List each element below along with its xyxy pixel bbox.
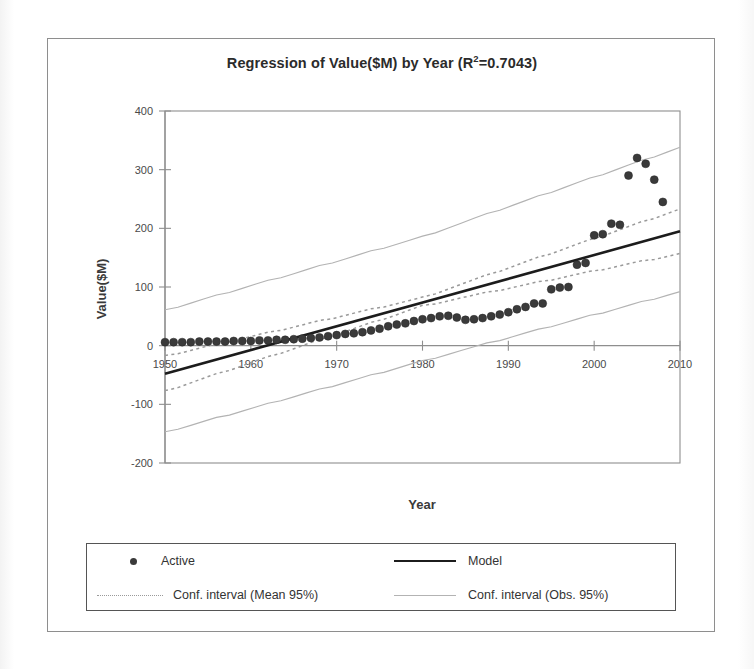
y-tick-label: -100 (131, 398, 153, 410)
solid-line-icon (382, 560, 468, 562)
data-point (633, 154, 641, 162)
data-point (401, 319, 409, 327)
active-data-points (161, 154, 667, 346)
legend-item-conf-obs: Conf. interval (Obs. 95%) (382, 578, 677, 612)
data-point (547, 285, 555, 293)
data-point (341, 330, 349, 338)
data-point (384, 322, 392, 330)
plot-area: 4003002001000-100-200 195019601970198019… (48, 39, 716, 539)
data-point (625, 172, 633, 180)
legend-item-active: Active (87, 544, 382, 578)
data-point (393, 321, 401, 329)
legend-label-model: Model (468, 554, 502, 568)
data-point (410, 317, 418, 325)
dotted-line-icon (87, 595, 173, 596)
data-point (513, 305, 521, 313)
data-point (195, 338, 203, 346)
dot-marker-icon (105, 558, 161, 565)
data-point (161, 338, 169, 346)
data-point (607, 220, 615, 228)
thin-line-icon (382, 595, 468, 596)
y-tick-label: 100 (135, 281, 153, 293)
data-point (204, 338, 212, 346)
data-point (221, 338, 229, 346)
data-point (238, 337, 246, 345)
data-point (419, 315, 427, 323)
x-tick-label: 2000 (582, 358, 606, 370)
data-point (264, 336, 272, 344)
x-tick-label: 1960 (239, 358, 263, 370)
data-point (273, 336, 281, 344)
legend-row: Conf. interval (Mean 95%) Conf. interval… (87, 578, 677, 612)
x-axis-title: Year (408, 497, 435, 512)
data-point (230, 337, 238, 345)
data-point (376, 325, 384, 333)
page-root: Regression of Value($M) by Year (R2=0.70… (0, 0, 754, 669)
data-point (290, 335, 298, 343)
x-tick-label: 2010 (668, 358, 692, 370)
data-point (504, 308, 512, 316)
legend-label-conf-obs: Conf. interval (Obs. 95%) (468, 588, 608, 602)
data-point (556, 284, 564, 292)
x-tick-label: 1970 (324, 358, 348, 370)
data-point (642, 160, 650, 168)
data-point (187, 338, 195, 346)
model-line (165, 231, 680, 374)
data-point (436, 312, 444, 320)
data-point (487, 312, 495, 320)
y-tick-label: -200 (131, 457, 153, 469)
y-tick-label: 400 (135, 105, 153, 117)
data-point (599, 230, 607, 238)
y-axis: 4003002001000-100-200 (131, 105, 171, 469)
data-point (573, 261, 581, 269)
data-point (453, 314, 461, 322)
data-point (170, 338, 178, 346)
data-point (307, 334, 315, 342)
scan-edge-left (0, 0, 14, 669)
data-point (178, 338, 186, 346)
data-point (316, 333, 324, 341)
data-point (281, 336, 289, 344)
conf-interval-obs-lines (165, 147, 680, 431)
data-point (659, 198, 667, 206)
data-point (358, 328, 366, 336)
legend-item-model: Model (382, 544, 677, 578)
data-point (479, 314, 487, 322)
data-point (650, 176, 658, 184)
data-point (324, 332, 332, 340)
legend-row: Active Model (87, 544, 677, 578)
y-tick-label: 300 (135, 164, 153, 176)
chart-legend: Active Model Conf. interval (Mean 95%) C… (86, 543, 676, 611)
x-tick-label: 1950 (153, 358, 177, 370)
data-point (461, 316, 469, 324)
data-point (539, 299, 547, 307)
y-tick-label: 0 (147, 340, 153, 352)
data-point (470, 315, 478, 323)
chart-frame: Regression of Value($M) by Year (R2=0.70… (47, 38, 715, 632)
x-tick-label: 1990 (496, 358, 520, 370)
legend-label-conf-mean: Conf. interval (Mean 95%) (173, 588, 318, 602)
data-point (247, 337, 255, 345)
scan-edge-right (738, 0, 754, 669)
plot-border (165, 111, 680, 463)
legend-item-conf-mean: Conf. interval (Mean 95%) (87, 578, 382, 612)
data-point (427, 314, 435, 322)
data-point (298, 335, 306, 343)
data-point (444, 312, 452, 320)
data-point (616, 221, 624, 229)
data-point (522, 303, 530, 311)
data-point (582, 259, 590, 267)
legend-label-active: Active (161, 554, 195, 568)
data-point (564, 283, 572, 291)
data-point (590, 231, 598, 239)
data-point (350, 329, 358, 337)
data-point (255, 336, 263, 344)
data-point (333, 331, 341, 339)
data-point (213, 338, 221, 346)
data-point (530, 299, 538, 307)
y-tick-label: 200 (135, 222, 153, 234)
data-point (367, 326, 375, 334)
data-point (496, 311, 504, 319)
y-axis-title: Value($M) (94, 259, 109, 320)
